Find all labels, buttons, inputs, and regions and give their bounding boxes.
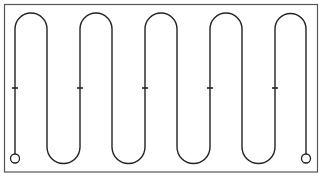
end-terminal-icon (302, 154, 311, 163)
frame-border (5, 5, 318, 173)
serpentine-path (15, 13, 306, 164)
start-terminal-icon (11, 154, 20, 163)
serpentine-diagram (0, 0, 322, 176)
